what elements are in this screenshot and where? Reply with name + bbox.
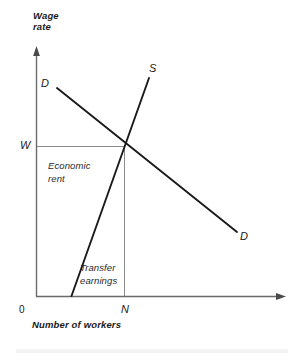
- y-axis-arrow-icon: [33, 46, 40, 56]
- y-axis-title-line2: rate: [33, 21, 59, 32]
- transfer-earnings-label: Transfer earnings: [80, 262, 117, 287]
- y-axis-title-line1: Wage: [33, 10, 59, 21]
- x-axis-arrow-icon: [276, 293, 286, 300]
- economic-rent-line2: rent: [48, 173, 91, 186]
- economic-rent-label: Economic rent: [48, 160, 91, 185]
- y-axis-title: Wage rate: [33, 10, 59, 32]
- page-edge-artifact: [16, 349, 288, 353]
- x-axis-tick-label-n: N: [121, 303, 129, 316]
- transfer-earnings-line1: Transfer: [80, 262, 117, 275]
- economic-rent-line1: Economic: [48, 160, 91, 173]
- demand-curve-label-top: D: [41, 77, 49, 90]
- economic-rent-transfer-earnings-figure: Wage rate D S D W N 0 Economic rent Tran…: [0, 0, 305, 356]
- demand-curve-label-bottom: D: [240, 230, 248, 243]
- y-axis-tick-label-w: W: [20, 139, 30, 152]
- transfer-earnings-line2: earnings: [80, 275, 117, 288]
- supply-curve-label: S: [149, 62, 156, 75]
- origin-label: 0: [19, 304, 25, 316]
- diagram-canvas: [0, 0, 305, 356]
- x-axis-title: Number of workers: [32, 319, 121, 330]
